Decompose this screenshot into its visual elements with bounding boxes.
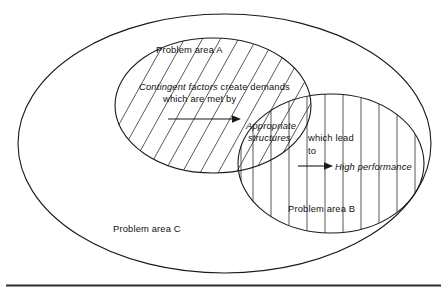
label-contingent-factors-line1: Contingent factors create demands: [139, 81, 290, 92]
label-appropriate-structures-line1: Appropriate: [245, 120, 296, 131]
label-appropriate-structures-line2: structures: [248, 132, 291, 143]
label-contingent-rest: create demands: [218, 81, 290, 92]
label-contingent-factors-line2: which are met by: [162, 93, 236, 104]
arrow-to-performance: [298, 162, 333, 170]
label-high-performance: High performance: [335, 161, 412, 172]
label-problem-area-b: Problem area B: [288, 203, 355, 214]
label-contingent-italic: Contingent factors: [139, 81, 218, 92]
figure-root: Problem area A Contingent factors create…: [0, 0, 447, 300]
label-which-lead-line2: to: [308, 145, 316, 156]
label-problem-area-c: Problem area C: [113, 223, 181, 234]
label-which-lead-line1: which lead: [307, 132, 354, 143]
diagram-label-layer: Problem area A Contingent factors create…: [113, 44, 412, 234]
arrow-to-structures: [168, 115, 241, 123]
ellipse-problem-area-c: [18, 14, 431, 273]
venn-diagram-canvas: Problem area A Contingent factors create…: [0, 0, 447, 300]
label-problem-area-a: Problem area A: [156, 44, 223, 55]
